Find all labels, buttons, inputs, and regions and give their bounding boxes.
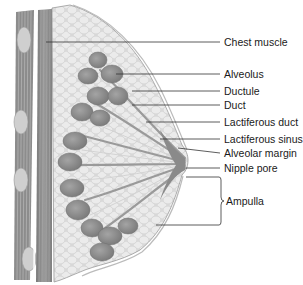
rib-3 <box>14 168 28 192</box>
label-alveolar-margin: Alveolar margin <box>224 147 297 159</box>
label-nipple-pore: Nipple pore <box>224 162 278 174</box>
label-ductule: Ductule <box>224 85 260 97</box>
rib-2 <box>14 110 28 134</box>
chest-muscle <box>34 9 52 282</box>
rib-1 <box>17 27 31 53</box>
label-ampulla: Ampulla <box>226 195 264 207</box>
ampulla-brace <box>218 177 224 225</box>
label-alveolus: Alveolus <box>224 68 264 80</box>
rib-wall <box>14 10 36 280</box>
label-lactiferous-sinus: Lactiferous sinus <box>224 133 303 145</box>
label-chest-muscle: Chest muscle <box>224 36 288 48</box>
label-lactiferous-duct: Lactiferous duct <box>224 116 298 128</box>
label-duct: Duct <box>224 99 246 111</box>
